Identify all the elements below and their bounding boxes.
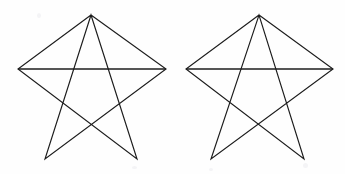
- canvas-background: [0, 0, 345, 174]
- pentagram-figure: [0, 0, 345, 174]
- figure-canvas: [0, 0, 345, 174]
